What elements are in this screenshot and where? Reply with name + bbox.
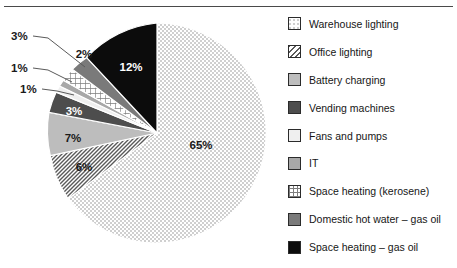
legend-label: Warehouse lighting (309, 18, 399, 30)
very-light-gray-swatch-icon (288, 129, 301, 142)
diagonal-hatch-swatch-icon (288, 45, 301, 58)
pie-callout-it: 1% (20, 83, 37, 95)
chart-legend: Warehouse lighting Office lighting Batte… (288, 10, 456, 261)
medium-gray-swatch-icon (288, 157, 301, 170)
pie-chart-figure: 65% 6% 7% 3% 2% 12% 3% 1% 1% Warehouse l… (0, 0, 457, 268)
legend-item-fans-and-pumps: Fans and pumps (288, 122, 456, 150)
top-divider-rule (4, 6, 453, 7)
sparse-dots-swatch-icon (288, 17, 301, 30)
cross-hatch-grid-swatch-icon (288, 185, 301, 198)
pie-label-battery-charging: 7% (65, 132, 82, 144)
pie-label-warehouse-lighting: 65% (189, 139, 212, 151)
pie-label-office-lighting: 6% (76, 161, 93, 173)
legend-item-space-heating-gas-oil: Space heating – gas oil (288, 233, 456, 261)
legend-item-space-heating-kerosene: Space heating (kerosene) (288, 177, 456, 205)
medium-dark-gray-swatch-icon (288, 213, 301, 226)
legend-item-office-lighting: Office lighting (288, 38, 456, 66)
pie-plot-area: 65% 6% 7% 3% 2% 12% 3% 1% 1% (0, 8, 278, 268)
medium-gray-swatch-icon (288, 73, 301, 86)
pie-callout-domestic-hot-water-gas-oil: 3% (11, 30, 28, 42)
legend-label: IT (309, 157, 318, 169)
legend-label: Space heating – gas oil (309, 241, 418, 253)
legend-label: Vending machines (309, 102, 395, 114)
pie-label-space-heating-gas-oil: 12% (119, 61, 142, 73)
legend-label: Office lighting (309, 46, 372, 58)
legend-label: Fans and pumps (309, 130, 387, 142)
pie-callout-fans-and-pumps: 1% (11, 62, 28, 74)
legend-item-it: IT (288, 149, 456, 177)
legend-item-domestic-hot-water-gas-oil: Domestic hot water – gas oil (288, 205, 456, 233)
solid-black-swatch-icon (288, 241, 301, 254)
legend-item-battery-charging: Battery charging (288, 66, 456, 94)
dark-gray-swatch-icon (288, 101, 301, 114)
legend-item-vending-machines: Vending machines (288, 94, 456, 122)
legend-item-warehouse-lighting: Warehouse lighting (288, 10, 456, 38)
legend-label: Battery charging (309, 74, 385, 86)
legend-label: Domestic hot water – gas oil (309, 213, 441, 225)
pie-label-vending-machines: 3% (66, 105, 83, 117)
pie-label-space-heating-kerosene: 2% (76, 48, 93, 60)
legend-label: Space heating (kerosene) (309, 185, 429, 197)
pie-svg: 65% 6% 7% 3% 2% 12% 3% 1% 1% (0, 8, 278, 268)
